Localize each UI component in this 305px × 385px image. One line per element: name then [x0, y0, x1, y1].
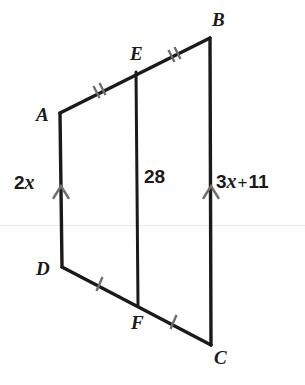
vertex-label-D: D — [36, 259, 50, 278]
measure-label-left-side: 2x — [14, 172, 35, 192]
measure-label-right-side: 3x+11 — [216, 171, 269, 191]
vertex-label-E: E — [130, 44, 143, 63]
measure-left-coefficient: 2 — [14, 172, 25, 193]
measure-label-midsegment: 28 — [144, 167, 165, 186]
geometry-figure: A B C D E F 2x 28 3x+11 — [0, 0, 305, 385]
vertex-label-B: B — [212, 10, 225, 29]
measure-left-variable: x — [25, 171, 35, 193]
measure-right-variable: x — [227, 170, 237, 192]
measure-right-coefficient: 3 — [216, 171, 227, 192]
segment-AD — [60, 113, 62, 267]
geometry-diagram-canvas — [0, 0, 305, 385]
vertex-label-A: A — [36, 105, 49, 124]
measure-right-operator: + — [237, 173, 249, 192]
measure-right-constant: 11 — [249, 171, 269, 192]
segment-BC — [210, 38, 211, 345]
vertex-label-F: F — [131, 313, 144, 332]
vertex-label-C: C — [214, 348, 227, 367]
segment-EF — [136, 72, 138, 305]
